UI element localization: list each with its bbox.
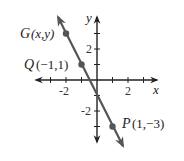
point-g [63, 30, 69, 36]
y-axis-label: y [84, 10, 92, 25]
x-tick-label-neg2: -2 [59, 84, 69, 98]
point-q-letter: Q [24, 57, 34, 72]
point-q [78, 61, 84, 67]
point-p [109, 123, 115, 129]
y-tick-label-neg2: -2 [81, 104, 91, 118]
point-q-coords: (−1,1) [36, 57, 68, 72]
point-p-coords: (1,−3) [132, 116, 164, 131]
point-p-letter: P [121, 116, 131, 131]
point-g-letter: G [20, 26, 30, 41]
point-g-coords-text: (x,y) [31, 26, 54, 41]
x-tick-label-2: 2 [125, 84, 131, 98]
point-g-coords: (x,y) [31, 26, 54, 41]
y-tick-label-2: 2 [86, 42, 92, 56]
x-axis-label: x [152, 82, 159, 97]
coordinate-plane: G (x,y) Q (−1,1) P (1,−3) x y -2 2 2 -2 [0, 0, 184, 161]
